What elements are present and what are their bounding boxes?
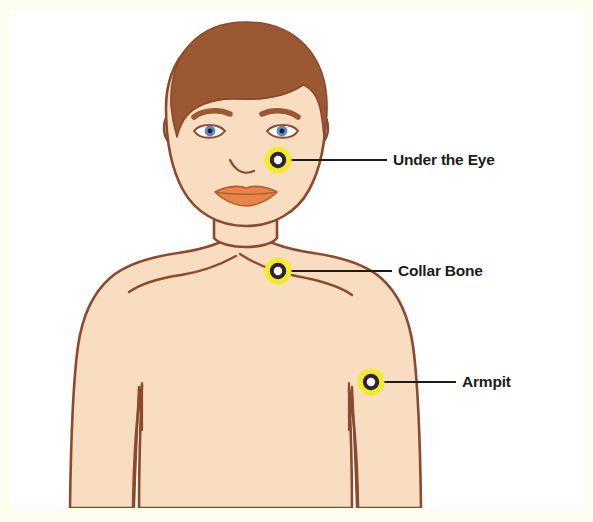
label-armpit: Armpit bbox=[462, 373, 511, 391]
marker-under-the-eye[interactable] bbox=[265, 147, 292, 174]
marker-center-icon bbox=[274, 267, 282, 275]
diagram-page: Under the Eye Collar Bone Armpit bbox=[0, 0, 593, 522]
label-collar-bone: Collar Bone bbox=[398, 262, 483, 280]
left-pupil bbox=[208, 129, 213, 134]
marker-center-icon bbox=[367, 378, 375, 386]
marker-center-icon bbox=[274, 156, 282, 164]
head-group bbox=[166, 22, 327, 226]
marker-collar-bone[interactable] bbox=[265, 258, 292, 285]
label-under-the-eye: Under the Eye bbox=[393, 151, 495, 169]
body-figure-illustration bbox=[0, 0, 593, 522]
right-eye bbox=[267, 125, 298, 138]
left-eye bbox=[194, 125, 225, 138]
right-pupil bbox=[280, 129, 285, 134]
marker-armpit[interactable] bbox=[358, 369, 385, 396]
